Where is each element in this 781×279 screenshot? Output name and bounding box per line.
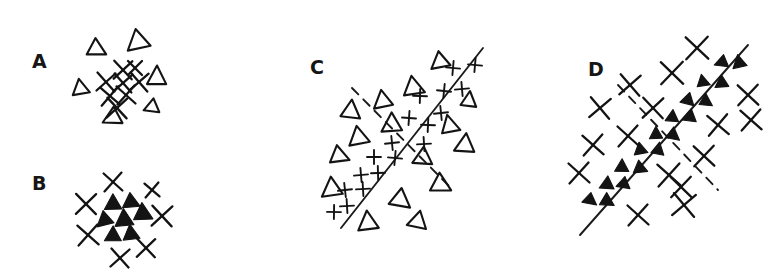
plus-stroke	[421, 125, 435, 126]
plus-stroke	[402, 118, 416, 119]
plus-stroke	[455, 88, 469, 89]
figure-container: ABCD	[0, 0, 781, 279]
plus-stroke	[356, 189, 370, 190]
plus-stroke	[388, 157, 402, 158]
plus-stroke	[354, 174, 368, 175]
figure-canvas: ABCD	[0, 0, 781, 279]
panel-label-a: A	[32, 50, 47, 72]
plus-stroke	[340, 206, 354, 207]
panel-label-d: D	[588, 58, 604, 80]
plus-stroke	[468, 64, 482, 65]
panel-label-b: B	[32, 172, 46, 194]
panel-label-c: C	[310, 56, 324, 78]
plus-stroke	[417, 144, 431, 145]
plus-stroke	[446, 67, 460, 68]
